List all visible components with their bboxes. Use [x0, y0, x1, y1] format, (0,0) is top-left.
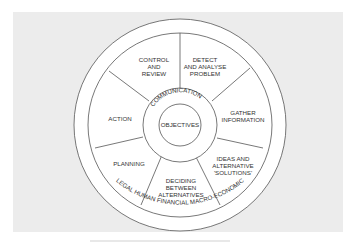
svg-text:CONTROL: CONTROL	[139, 56, 170, 63]
svg-text:PROBLEM: PROBLEM	[190, 70, 220, 77]
svg-text:AND ANALYSE: AND ANALYSE	[184, 63, 227, 70]
svg-text:IDEAS AND: IDEAS AND	[216, 155, 250, 162]
svg-text:AND: AND	[147, 63, 161, 70]
svg-text:GATHER: GATHER	[230, 109, 256, 116]
svg-text:INFORMATION: INFORMATION	[222, 116, 265, 123]
svg-text:PLANNING: PLANNING	[113, 160, 145, 167]
svg-text:ALTERNATIVES: ALTERNATIVES	[158, 191, 204, 198]
svg-text:'SOLUTIONS': 'SOLUTIONS'	[214, 169, 252, 176]
problem-solving-wheel: CONSTRAINTS LEGAL HUMAN FINANCIAL MACRO-…	[0, 0, 348, 251]
svg-text:ACTION: ACTION	[108, 115, 131, 122]
svg-text:DECIDING: DECIDING	[166, 177, 196, 184]
objectives-label: OBJECTIVES	[161, 121, 200, 128]
segment-ideas-and-alternative-solutions: IDEAS AND ALTERNATIVE 'SOLUTIONS'	[212, 155, 253, 176]
svg-text:BETWEEN: BETWEEN	[166, 184, 197, 191]
segment-planning: PLANNING	[113, 160, 145, 167]
segment-action: ACTION	[108, 115, 131, 122]
svg-text:REVIEW: REVIEW	[142, 70, 167, 77]
svg-text:ALTERNATIVE: ALTERNATIVE	[212, 162, 253, 169]
svg-text:DETECT: DETECT	[193, 56, 218, 63]
